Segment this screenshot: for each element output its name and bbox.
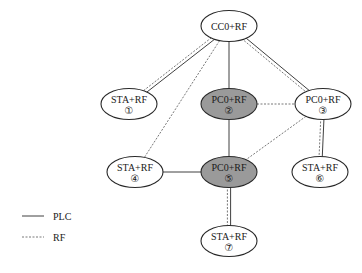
- node-n4: STA+RF④: [107, 157, 163, 188]
- node-number: ⑤: [225, 173, 234, 184]
- network-topology-diagram: CC0+RFSTA+RF①PC0+RF②PC0+RF③STA+RF④PC0+RF…: [0, 0, 362, 273]
- node-number: ⑥: [316, 173, 325, 184]
- legend: PLC RF: [22, 211, 72, 243]
- node-number: ②: [225, 105, 234, 116]
- node-n3: PC0+RF③: [295, 89, 351, 120]
- node-n7: STA+RF⑦: [201, 226, 257, 257]
- node-number: ④: [131, 173, 140, 184]
- node-label: PC0+RF: [305, 94, 341, 105]
- node-number: ①: [125, 105, 134, 116]
- node-label: STA+RF: [302, 162, 338, 173]
- legend-rf-label: RF: [53, 232, 66, 243]
- node-number: ⑦: [225, 242, 234, 253]
- legend-plc-label: PLC: [53, 211, 72, 222]
- node-label: STA+RF: [211, 231, 247, 242]
- node-number: ③: [319, 105, 328, 116]
- node-cc0: CC0+RF: [201, 11, 257, 42]
- node-label: PC0+RF: [211, 94, 247, 105]
- node-n5: PC0+RF⑤: [201, 157, 257, 188]
- nodes-layer: CC0+RFSTA+RF①PC0+RF②PC0+RF③STA+RF④PC0+RF…: [101, 11, 351, 257]
- node-n6: STA+RF⑥: [292, 157, 348, 188]
- node-label: STA+RF: [111, 94, 147, 105]
- node-label: CC0+RF: [211, 21, 248, 32]
- node-label: PC0+RF: [211, 162, 247, 173]
- node-label: STA+RF: [117, 162, 153, 173]
- node-n1: STA+RF①: [101, 89, 157, 120]
- edges-layer: [128, 25, 325, 241]
- node-n2: PC0+RF②: [201, 89, 257, 120]
